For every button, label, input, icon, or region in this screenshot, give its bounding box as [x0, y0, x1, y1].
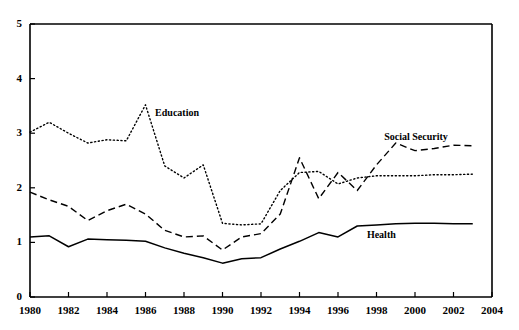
x-tick-label-1984: 1984 — [87, 305, 127, 316]
x-tick-label-2002: 2002 — [434, 305, 474, 316]
series-paths — [30, 105, 473, 263]
x-tick-label-2000: 2000 — [395, 305, 435, 316]
x-tick-label-1988: 1988 — [164, 305, 204, 316]
y-tick-label-1: 1 — [6, 236, 22, 247]
x-tick-label-1980: 1980 — [10, 305, 50, 316]
x-tick-label-1998: 1998 — [357, 305, 397, 316]
x-tick-label-1982: 1982 — [49, 305, 89, 316]
x-tick-label-1994: 1994 — [280, 305, 320, 316]
series-label-health: Health — [367, 230, 396, 240]
chart-figure: 012345 198019821984198619881990199219941… — [0, 0, 519, 330]
series-label-social-security: Social Security — [384, 132, 448, 142]
y-tick-label-4: 4 — [6, 73, 22, 84]
series-line-education — [30, 105, 473, 225]
y-tick-label-5: 5 — [6, 18, 22, 29]
y-tick-label-2: 2 — [6, 182, 22, 193]
x-tick-label-1986: 1986 — [126, 305, 166, 316]
x-tick-label-1996: 1996 — [318, 305, 358, 316]
y-tick-label-0: 0 — [6, 291, 22, 302]
plot-frame — [30, 24, 492, 297]
x-tick-label-2004: 2004 — [472, 305, 512, 316]
series-line-health — [30, 223, 473, 263]
series-line-social-security — [30, 143, 473, 250]
x-tick-label-1992: 1992 — [241, 305, 281, 316]
x-tick-label-1990: 1990 — [203, 305, 243, 316]
y-tick-label-3: 3 — [6, 127, 22, 138]
series-label-education: Education — [155, 108, 199, 118]
chart-canvas — [0, 0, 519, 330]
